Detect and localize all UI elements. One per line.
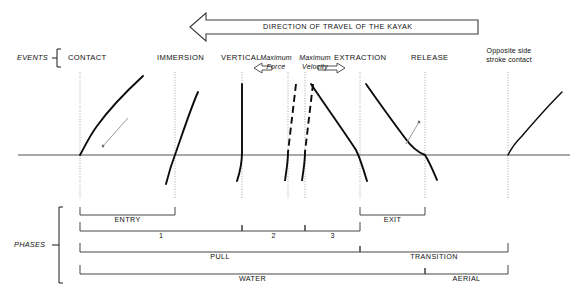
curve-max-force — [288, 84, 296, 152]
direction-of-travel-label: DIRECTION OF TRAVEL OF THE KAYAK — [263, 23, 413, 31]
phase-label-entry[interactable]: ENTRY — [80, 216, 175, 224]
phases-row-label: PHASES — [14, 241, 45, 250]
event-label-immersion[interactable]: IMMERSION — [157, 54, 204, 63]
annotation-max-force-line1: Maximum — [257, 54, 295, 62]
annotation-max-velocity-line1: Maximum — [295, 54, 335, 62]
phases-brace — [52, 207, 63, 283]
bracket-exit — [360, 207, 425, 215]
event-label-contact[interactable]: CONTACT — [68, 54, 107, 63]
annotation-max-force-line2: Force — [257, 63, 295, 71]
curve-direction-arrows — [103, 118, 419, 146]
event-gridlines — [80, 72, 508, 198]
phase-label-aerial[interactable]: AERIAL — [425, 275, 508, 283]
event-label-vertical[interactable]: VERTICAL — [221, 54, 261, 63]
events-row-label: EVENTS — [17, 54, 48, 63]
phase-row-4 — [80, 265, 508, 274]
phase-label-pull[interactable]: PULL — [80, 253, 360, 261]
arrow-entry-direction — [103, 118, 128, 146]
curve-opposite-side — [508, 92, 562, 155]
bracket-water-aerial — [80, 265, 508, 274]
kayak-stroke-diagram: DIRECTION OF TRAVEL OF THE KAYAK EVENTS … — [0, 0, 588, 298]
curve-immersion — [166, 92, 198, 184]
phase-row-1 — [80, 207, 425, 215]
event-label-release[interactable]: RELEASE — [411, 54, 448, 63]
phase-label-transition[interactable]: TRANSITION — [360, 253, 508, 261]
curve-vertical — [237, 84, 242, 181]
curve-release — [366, 84, 437, 180]
phase-label-2[interactable]: 2 — [242, 232, 305, 240]
phase-row-3 — [80, 243, 508, 252]
stroke-curves — [80, 76, 562, 184]
events-brace — [52, 49, 61, 67]
annotation-max-velocity-line2: Velocity — [295, 63, 335, 71]
arrow-release-direction — [406, 122, 419, 144]
bracket-pull-transition — [80, 243, 508, 252]
annotation-opposite-side-line2: stroke contact — [473, 55, 545, 64]
bracket-entry — [80, 207, 175, 215]
phase-label-1[interactable]: 1 — [80, 232, 242, 240]
dashed-marker-curves — [288, 84, 313, 152]
phase-label-3[interactable]: 3 — [305, 232, 360, 240]
event-label-extraction[interactable]: EXTRACTION — [334, 54, 386, 63]
curve-entry — [80, 76, 143, 155]
phase-label-exit[interactable]: EXIT — [360, 216, 425, 224]
phase-label-water[interactable]: WATER — [80, 275, 425, 283]
curve-max-velocity — [305, 84, 313, 152]
curve-extraction — [311, 84, 367, 181]
